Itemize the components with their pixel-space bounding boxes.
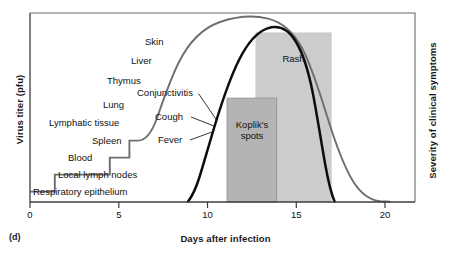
figure-panel: Virus titer (pfu) Severity of clinical s…	[0, 0, 451, 255]
koplik-spots-box-label-line1: Koplik's	[227, 119, 277, 130]
step-label-thymus: Thymus	[107, 75, 141, 86]
step-label-lung: Lung	[103, 99, 124, 110]
koplik-spots-box	[227, 98, 277, 202]
y-axis-right-title: Severity of clinical symptoms	[427, 31, 438, 191]
step-label-spleen: Spleen	[92, 135, 122, 146]
cough-leader-line	[191, 117, 214, 126]
rash-box-label: Rash	[255, 53, 332, 64]
symptom-label-fever: Fever	[158, 134, 182, 145]
x-tick-label-15: 15	[281, 209, 311, 220]
x-axis	[30, 202, 415, 208]
step-label-blood: Blood	[68, 152, 92, 163]
y-axis-left-title: Virus titer (pfu)	[14, 50, 25, 170]
symptom-label-cough: Cough	[155, 111, 183, 122]
x-tick-label-0: 0	[15, 209, 45, 220]
fever-leader-line	[190, 132, 212, 140]
x-axis-title: Days after infection	[0, 233, 451, 244]
x-tick-label-5: 5	[104, 209, 134, 220]
step-label-liver: Liver	[131, 55, 152, 66]
koplik-spots-box-label-line2: spots	[227, 130, 277, 141]
step-label-skin: Skin	[145, 36, 163, 47]
conjunctivitis-leader-line	[199, 94, 217, 121]
step-label-lymphatic-tissue: Lymphatic tissue	[49, 117, 119, 128]
panel-letter-label: (d)	[9, 232, 21, 242]
x-tick-label-20: 20	[370, 209, 400, 220]
symptom-label-conjunctivitis: Conjunctivitis	[137, 87, 193, 98]
x-tick-label-10: 10	[193, 209, 223, 220]
step-label-local-lymph-nodes: Local lymph nodes	[58, 169, 137, 180]
step-label-respiratory-epithelium: Respiratory epithelium	[33, 186, 128, 197]
